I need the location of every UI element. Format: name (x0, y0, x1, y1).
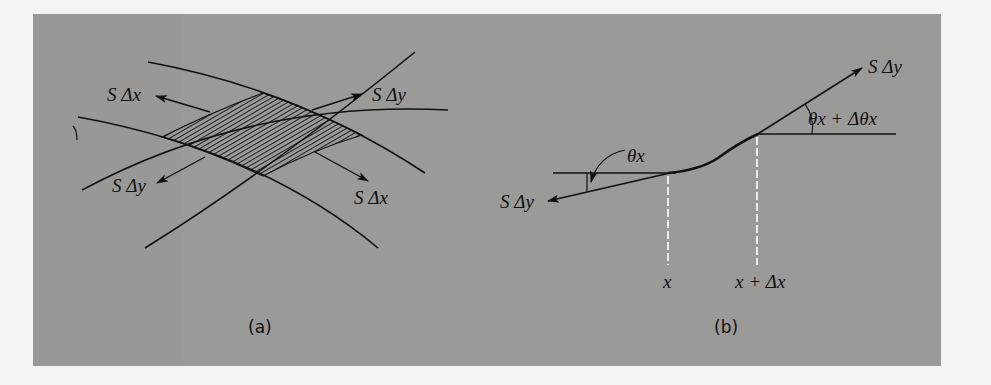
label-x-plus-dx: x + Δx (734, 271, 786, 292)
caption-a: (a) (248, 317, 272, 337)
caption-b: (b) (714, 317, 738, 337)
label-a-lower-left: S Δy (112, 175, 146, 196)
label-b-tension-left: S Δy (500, 191, 534, 212)
label-a-upper-right: S Δy (372, 84, 406, 105)
label-a-upper-left: S Δx (107, 84, 141, 105)
label-theta-x: θx (627, 145, 645, 166)
label-x: x (662, 271, 672, 292)
label-b-tension-right: S Δy (868, 56, 902, 77)
label-a-lower-right: S Δx (354, 187, 388, 208)
label-theta-x-plus-dtheta: θx + Δθx (808, 108, 878, 129)
membrane-element-figure: S Δx S Δy S Δy S Δx (a) θx θx + Δθx S Δy… (0, 0, 991, 385)
